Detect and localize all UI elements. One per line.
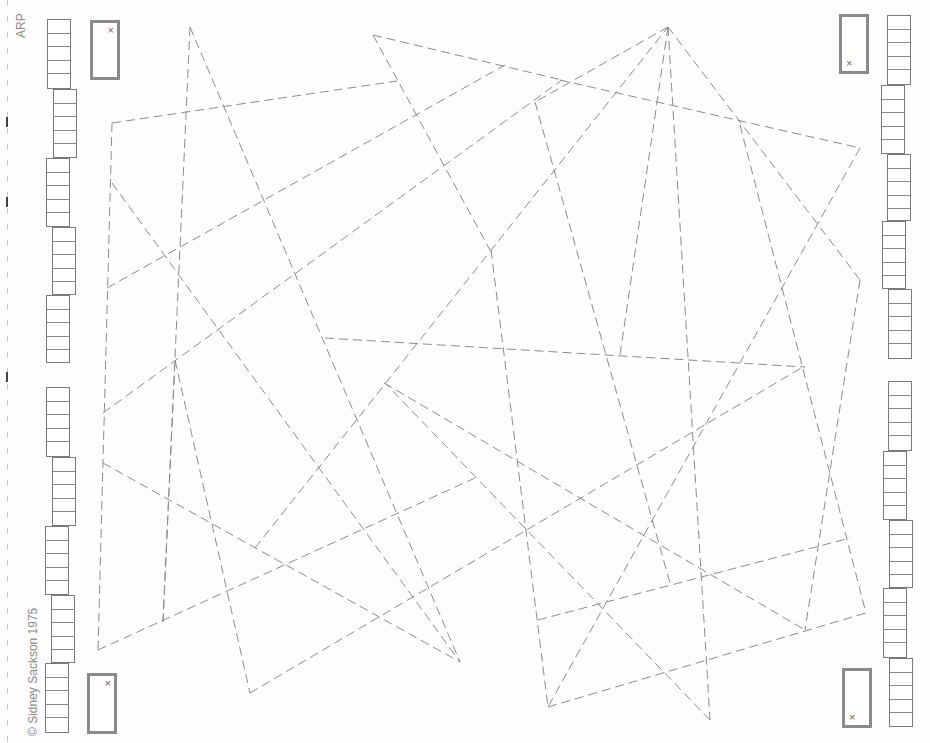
dashed-line-segment[interactable] (250, 367, 803, 693)
dashed-line-segment[interactable] (373, 35, 562, 80)
dashed-line-segment[interactable] (255, 27, 668, 548)
dashed-line-segment[interactable] (107, 65, 505, 288)
game-board: ARP © Sidney Sackson 1975 × × × × (0, 0, 930, 743)
dashed-line-segment[interactable] (620, 27, 668, 355)
dashed-line-segment[interactable] (491, 250, 548, 707)
dashed-line-segment[interactable] (190, 27, 460, 662)
dashed-line-segment[interactable] (98, 123, 112, 650)
dashed-line-segment[interactable] (373, 35, 490, 250)
dashed-line-segment[interactable] (668, 27, 710, 720)
dashed-line-segment[interactable] (98, 478, 475, 650)
dashed-line-segment[interactable] (538, 538, 850, 620)
dashed-line-segment[interactable] (325, 338, 805, 367)
line-network (0, 0, 930, 743)
dashed-line-segment[interactable] (560, 80, 860, 148)
dashed-line-segment[interactable] (548, 613, 866, 707)
dashed-line-segment[interactable] (535, 27, 668, 102)
dashed-line-segment[interactable] (805, 280, 860, 630)
dashed-line-segment[interactable] (103, 463, 460, 662)
dashed-line-segment[interactable] (175, 360, 250, 693)
dashed-line-segment[interactable] (384, 383, 805, 630)
dashed-line-segment[interactable] (548, 148, 860, 707)
dashed-line-segment[interactable] (112, 81, 397, 123)
dashed-line-segment[interactable] (668, 27, 860, 280)
dashed-line-segment[interactable] (740, 125, 866, 613)
